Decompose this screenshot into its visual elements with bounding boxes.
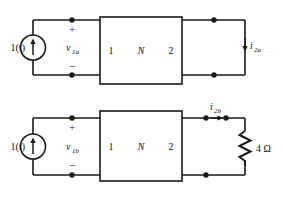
- twoport-b-port2-label: 2: [169, 141, 174, 152]
- circuit-figure: 1(t) + − v 1a 1 N 2: [0, 0, 283, 197]
- polarity-plus-b: +: [69, 122, 75, 133]
- circuit-a-source-branch: [21, 20, 101, 75]
- terminal-dot-a-port1-top: [69, 17, 74, 22]
- current-a-subscript: 2a: [254, 46, 262, 54]
- terminal-dot-b-port2-top: [203, 115, 208, 120]
- terminal-dot-b-port2-top-outer: [223, 115, 228, 120]
- terminal-dot-b-port1-bottom: [69, 172, 74, 177]
- twoport-b-network-label: N: [137, 141, 146, 152]
- source-b-label: 1(t): [11, 141, 25, 153]
- current-b-arrow-head: [218, 115, 224, 120]
- twoport-b-port1-label: 1: [109, 141, 114, 152]
- source-a-label: 1(t): [11, 42, 25, 54]
- resistor-b-label: 4 Ω: [256, 143, 271, 154]
- polarity-plus-a: +: [69, 24, 75, 35]
- current-arrow-a: [242, 38, 247, 52]
- voltage-label-b: v 1b: [66, 141, 80, 155]
- current-a-arrow-head: [242, 46, 247, 52]
- circuit-b: 1(t) + − v 1b 1 N 2: [11, 101, 271, 181]
- twoport-a-port2-label: 2: [169, 45, 174, 56]
- terminal-dot-b-port1-top: [69, 115, 74, 120]
- twoport-a-network-label: N: [137, 45, 146, 56]
- polarity-minus-a: −: [69, 60, 75, 72]
- voltage-a-subscript: 1a: [72, 48, 80, 56]
- voltage-a-symbol: v: [66, 42, 71, 53]
- circuit-b-source-branch: [21, 118, 101, 175]
- voltage-b-subscript: 1b: [72, 147, 80, 155]
- current-b-symbol: i: [210, 101, 213, 112]
- terminal-dot-b-port2-bottom: [203, 172, 208, 177]
- current-label-b: i 2b: [210, 101, 222, 115]
- current-a-symbol: i: [250, 40, 253, 51]
- terminal-dot-a-port2-bottom: [211, 72, 216, 77]
- current-label-a: i 2a: [250, 40, 262, 54]
- current-arrow-b: [210, 115, 224, 120]
- twoport-a-port1-label: 1: [109, 45, 114, 56]
- voltage-label-a: v 1a: [66, 42, 80, 56]
- voltage-b-symbol: v: [66, 141, 71, 152]
- terminal-dot-a-port2-top: [211, 17, 216, 22]
- current-b-subscript: 2b: [214, 107, 222, 115]
- resistor-b-symbol: [240, 131, 251, 166]
- polarity-minus-b: −: [69, 159, 75, 171]
- terminal-dot-a-port1-bottom: [69, 72, 74, 77]
- circuit-a: 1(t) + − v 1a 1 N 2: [11, 17, 262, 84]
